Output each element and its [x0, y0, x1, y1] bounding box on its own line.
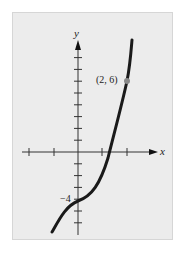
x-axis-arrow-icon	[149, 149, 158, 155]
graph	[0, 0, 182, 258]
point-marker-icon	[124, 78, 130, 84]
y-intercept-label: −4	[60, 194, 71, 204]
point-label: (2, 6)	[96, 75, 118, 85]
y-axis-arrow-icon	[75, 40, 81, 50]
y-axis-label: y	[74, 28, 79, 39]
x-axis-label: x	[160, 146, 165, 157]
